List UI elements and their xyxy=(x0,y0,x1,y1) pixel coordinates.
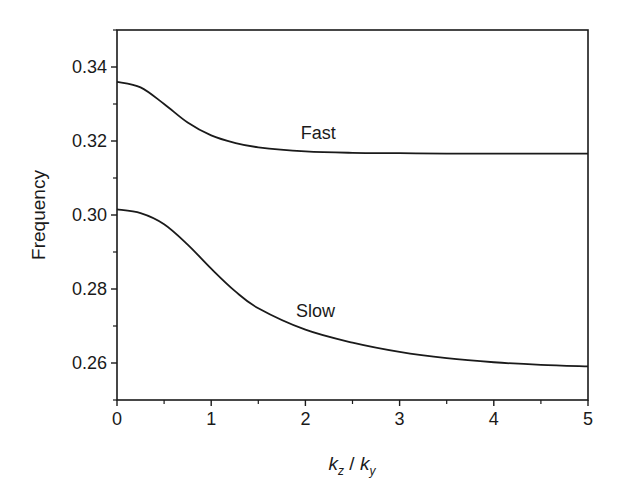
curve-fast xyxy=(117,82,588,154)
y-tick-label: 0.30 xyxy=(72,205,107,225)
y-tick-label: 0.32 xyxy=(72,131,107,151)
y-tick-label: 0.34 xyxy=(72,57,107,77)
x-axis-ticks: 012345 xyxy=(112,400,593,429)
x-tick-label: 0 xyxy=(112,409,122,429)
x-tick-label: 2 xyxy=(300,409,310,429)
y-axis-ticks: 0.260.280.300.320.34 xyxy=(72,30,117,400)
curve-slow xyxy=(117,209,588,366)
label-fast: Fast xyxy=(301,123,336,143)
x-tick-label: 5 xyxy=(583,409,593,429)
label-slow: Slow xyxy=(296,301,336,321)
x-tick-label: 1 xyxy=(206,409,216,429)
frequency-chart: 012345 0.260.280.300.320.34 FastSlow Fre… xyxy=(0,0,643,499)
y-axis-label: Frequency xyxy=(28,170,49,260)
plot-frame xyxy=(117,30,588,400)
curves xyxy=(117,82,588,367)
y-tick-label: 0.26 xyxy=(72,353,107,373)
y-tick-label: 0.28 xyxy=(72,279,107,299)
x-tick-label: 3 xyxy=(395,409,405,429)
x-tick-label: 4 xyxy=(489,409,499,429)
x-axis-label: kz / ky xyxy=(329,453,377,478)
